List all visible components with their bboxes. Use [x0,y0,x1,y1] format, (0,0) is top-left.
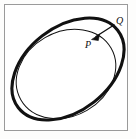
point-label-p: P [85,40,91,50]
point-label-q: Q [116,16,123,26]
figure-container: P Q [0,0,136,139]
